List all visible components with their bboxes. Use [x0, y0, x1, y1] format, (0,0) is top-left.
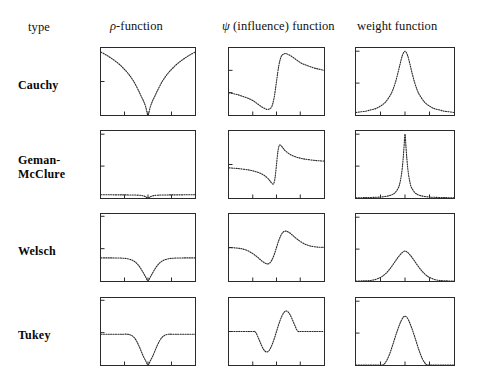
plot-panel-cauchy-psi: [228, 47, 325, 116]
plot-surface-cauchy-weight: [356, 48, 454, 115]
axis-ticks-cauchy-weight: [356, 51, 430, 115]
row-label-geman-mcclure: Geman- McClure: [18, 153, 65, 181]
data-curve-welsch-weight: [356, 251, 454, 281]
plot-surface-tukey-psi: [229, 298, 324, 365]
plot-surface-cauchy-psi: [229, 48, 324, 115]
plot-surface-tukey-weight: [356, 298, 454, 365]
row-label-line: Cauchy: [18, 78, 59, 92]
data-curve-welsch-psi: [229, 231, 324, 264]
data-curve-cauchy-weight: [356, 51, 454, 112]
row-label-line: McClure: [18, 167, 65, 181]
plot-surface-welsch-weight: [356, 214, 454, 281]
row-label-line: Welsch: [18, 244, 56, 258]
plot-panel-geman-weight: [355, 130, 455, 199]
plot-surface-welsch-psi: [229, 214, 324, 281]
plot-panel-welsch-psi: [228, 213, 325, 282]
data-curve-geman-psi: [229, 145, 324, 184]
plot-panel-tukey-rho: [100, 297, 196, 366]
column-header-weight-function: weight function: [357, 19, 437, 34]
plot-surface-tukey-rho: [101, 298, 195, 365]
plot-surface-cauchy-rho: [101, 48, 195, 115]
column-header-type: type: [28, 20, 50, 35]
column-header-psi-function: ψ (influence) function: [222, 19, 335, 34]
axis-ticks-tukey-rho: [101, 300, 172, 365]
plot-surface-geman-psi: [229, 131, 324, 198]
axis-ticks-geman-psi: [229, 165, 300, 199]
row-label-line: Geman-: [18, 153, 65, 167]
row-label-line: Tukey: [18, 328, 51, 342]
axis-ticks-welsch-rho: [101, 216, 172, 281]
data-curve-tukey-rho: [101, 334, 195, 365]
data-curve-geman-weight: [356, 134, 454, 198]
psi-symbol: ψ: [222, 19, 230, 33]
axis-ticks-geman-weight: [356, 134, 430, 198]
data-curve-tukey-psi: [229, 311, 324, 352]
rho-suffix: -function: [116, 19, 163, 33]
plot-panel-cauchy-rho: [100, 47, 196, 116]
axis-ticks-welsch-psi: [229, 248, 300, 282]
figure-page: type ρ-function ψ (influence) function w…: [0, 0, 481, 381]
axis-ticks-tukey-psi: [229, 332, 300, 366]
plot-panel-welsch-weight: [355, 213, 455, 282]
psi-suffix: (influence) function: [230, 19, 335, 33]
axis-ticks-tukey-weight: [356, 301, 430, 365]
row-label-welsch: Welsch: [18, 244, 56, 258]
plot-panel-tukey-psi: [228, 297, 325, 366]
plot-surface-welsch-rho: [101, 214, 195, 281]
plot-panel-welsch-rho: [100, 213, 196, 282]
plot-panel-tukey-weight: [355, 297, 455, 366]
row-label-cauchy: Cauchy: [18, 78, 59, 92]
axis-ticks-geman-rho: [101, 134, 172, 198]
data-curve-tukey-weight: [356, 316, 454, 365]
plot-panel-cauchy-weight: [355, 47, 455, 116]
plot-panel-geman-psi: [228, 130, 325, 199]
plot-panel-geman-rho: [100, 130, 196, 199]
column-header-rho-function: ρ-function: [110, 19, 163, 34]
plot-surface-geman-weight: [356, 131, 454, 198]
data-curve-cauchy-psi: [229, 53, 324, 109]
row-label-tukey: Tukey: [18, 328, 51, 342]
axis-ticks-welsch-weight: [356, 217, 430, 281]
data-curve-cauchy-rho: [101, 52, 195, 115]
plot-surface-geman-rho: [101, 131, 195, 198]
